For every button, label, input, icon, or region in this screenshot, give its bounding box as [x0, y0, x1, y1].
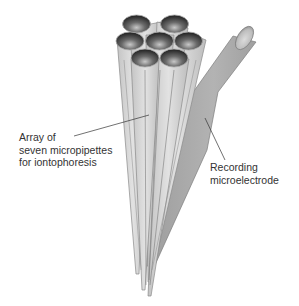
recording-label-line1: Recording [210, 161, 279, 174]
diagram-canvas: Array of seven micropipettes for iontoph… [0, 0, 299, 306]
recording-label: Recording microelectrode [210, 161, 279, 186]
array-label: Array of seven micropipettes for iontoph… [19, 131, 112, 169]
recording-label-line2: microelectrode [210, 174, 279, 187]
array-label-line1: Array of [19, 131, 112, 144]
array-label-line3: for iontophoresis [19, 156, 112, 169]
array-label-line2: seven micropipettes [19, 144, 112, 157]
